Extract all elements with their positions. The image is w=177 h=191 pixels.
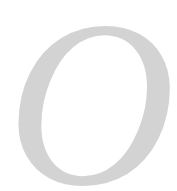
drop-cap-container: O [0, 0, 177, 191]
drop-cap-letter: O [6, 0, 174, 191]
